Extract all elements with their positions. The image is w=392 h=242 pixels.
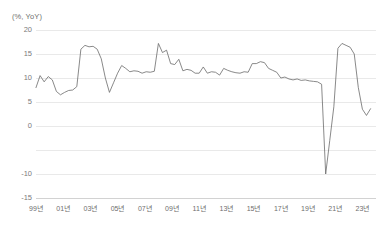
x-axis-tick-label: 09년 (165, 203, 179, 213)
x-axis-tick-label: 03년 (83, 203, 97, 213)
chart-caption (0, 233, 392, 242)
x-axis-labels: 99년01년03년05년07년09년11년13년15년17년19년21년23년 (36, 203, 376, 215)
y-axis-tick-label: 15 (8, 50, 32, 58)
y-axis-tick-label: 10 (8, 74, 32, 82)
x-axis-tick-label: 13년 (219, 203, 233, 213)
x-axis-tick-label: 01년 (56, 203, 70, 213)
x-axis-tick-label: 21년 (328, 203, 342, 213)
x-axis-tick-label: 23년 (355, 203, 369, 213)
x-axis-tick-label: 05년 (111, 203, 125, 213)
x-axis-tick-label: 15년 (247, 203, 261, 213)
plot-area (36, 30, 376, 198)
y-axis-tick-label: -10 (8, 170, 32, 178)
y-axis-tick-label: -15 (8, 194, 32, 202)
x-axis-tick-label: 11년 (193, 203, 206, 213)
chart-container: (%, YoY) 20151050-10-15 99년01년03년05년07년0… (0, 0, 392, 242)
x-axis-tick-label: 19년 (301, 203, 315, 213)
x-axis-tick-label: 07년 (138, 203, 152, 213)
y-axis-unit-label: (%, YoY) (12, 12, 42, 21)
series-path (36, 43, 371, 174)
x-axis-tick-label: 99년 (29, 203, 43, 213)
x-axis-line (36, 198, 376, 199)
series-line-chart (36, 30, 376, 198)
y-axis-tick-label: 0 (8, 122, 32, 130)
y-axis-tick-label: 5 (8, 98, 32, 106)
x-axis-tick-label: 17년 (274, 203, 288, 213)
y-axis-tick-label: 20 (8, 26, 32, 34)
y-axis-labels: 20151050-10-15 (6, 30, 32, 198)
